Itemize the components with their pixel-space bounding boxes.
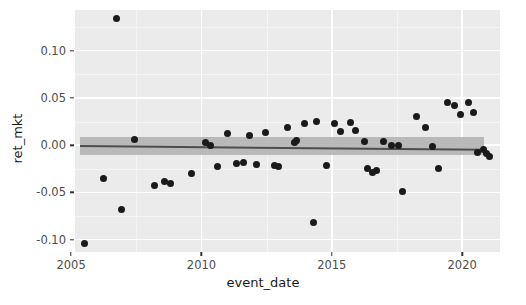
data-point: [451, 102, 458, 109]
gridline-major-horizontal: [75, 97, 500, 98]
data-point: [313, 118, 320, 125]
data-point: [457, 111, 464, 118]
data-point: [373, 167, 380, 174]
data-point: [310, 219, 317, 226]
data-point: [118, 206, 125, 213]
gridline-minor-horizontal: [75, 27, 500, 28]
y-axis-tick-mark: [70, 97, 74, 98]
data-point: [81, 240, 88, 247]
scatter-plot-figure: 0.100.050.00-0.05-0.10 2005201020152020 …: [0, 0, 526, 305]
y-axis-tick-label: 0.05: [40, 91, 66, 105]
gridline-major-horizontal: [75, 239, 500, 240]
data-point: [395, 142, 402, 149]
data-point: [486, 153, 493, 160]
data-point: [399, 188, 406, 195]
data-point: [465, 99, 472, 106]
x-axis-tick-label: 2005: [56, 258, 85, 272]
x-axis-tick-label: 2020: [448, 258, 477, 272]
gridline-major-vertical: [331, 10, 332, 252]
y-axis-tick-label: -0.05: [36, 185, 66, 199]
data-point: [429, 143, 436, 150]
data-point: [100, 175, 107, 182]
data-point: [262, 129, 269, 136]
data-point: [347, 119, 354, 126]
y-axis-tick-mark: [70, 144, 74, 145]
data-point: [352, 127, 359, 134]
x-axis-tick-mark: [70, 252, 71, 256]
gridline-major-horizontal: [75, 50, 500, 51]
data-point: [240, 159, 247, 166]
data-point: [284, 124, 291, 131]
x-axis-tick-mark: [201, 252, 202, 256]
gridline-major-horizontal: [75, 192, 500, 193]
data-point: [337, 128, 344, 135]
gridline-minor-horizontal: [75, 74, 500, 75]
y-axis-tick-mark: [70, 239, 74, 240]
y-axis-tick-label: 0.10: [40, 44, 66, 58]
data-point: [188, 170, 195, 177]
gridline-minor-horizontal: [75, 122, 500, 123]
y-axis-tick-label: -0.10: [36, 233, 66, 247]
data-point: [151, 182, 158, 189]
data-point: [167, 180, 174, 187]
data-point: [413, 113, 420, 120]
gridline-minor-horizontal: [75, 216, 500, 217]
data-point: [113, 15, 120, 22]
data-point: [253, 161, 260, 168]
data-point: [214, 163, 221, 170]
data-point: [275, 163, 282, 170]
x-axis-tick-label: 2010: [187, 258, 216, 272]
plot-panel: [75, 10, 500, 252]
data-point: [246, 132, 253, 139]
x-axis-title: event_date: [0, 275, 526, 290]
gridline-minor-vertical: [397, 10, 398, 252]
data-point: [331, 120, 338, 127]
data-point: [470, 109, 477, 116]
data-point: [435, 165, 442, 172]
y-axis-tick-mark: [70, 192, 74, 193]
data-point: [301, 120, 308, 127]
x-axis-tick-label: 2015: [317, 258, 346, 272]
y-axis-tick-mark: [70, 50, 74, 51]
gridline-major-vertical: [461, 10, 462, 252]
gridline-minor-vertical: [136, 10, 137, 252]
x-axis-tick-mark: [461, 252, 462, 256]
gridline-major-vertical: [201, 10, 202, 252]
y-axis-title: ret_mkt: [10, 84, 25, 194]
y-axis-tick-label: 0.00: [40, 138, 66, 152]
data-point: [422, 124, 429, 131]
x-axis-tick-mark: [331, 252, 332, 256]
